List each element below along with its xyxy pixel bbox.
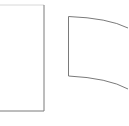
diagram-canvas (0, 0, 128, 126)
curved-sheet-shape (69, 17, 129, 90)
flat-rectangle-shape (0, 5, 44, 111)
